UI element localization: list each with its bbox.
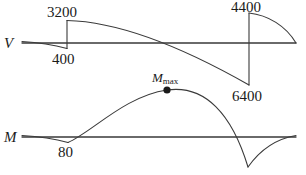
m-max-label: Mmax — [152, 71, 178, 84]
moment-axis-label: M — [4, 130, 17, 145]
moment-curve-hump — [68, 89, 248, 167]
moment-curve-segment-df — [248, 136, 296, 168]
beam-shear-moment-figure: V M 3200 400 4400 6400 80 Mmax — [0, 0, 306, 175]
shear-axis-label: V — [4, 36, 13, 51]
m-max-label-subscript: max — [163, 76, 179, 86]
shear-value-4400: 4400 — [231, 0, 261, 15]
m-max-label-base: M — [152, 70, 163, 85]
shear-value-400: 400 — [52, 52, 75, 67]
shear-value-3200: 3200 — [47, 5, 77, 20]
m-max-marker-dot — [163, 86, 170, 93]
moment-value-80: 80 — [58, 145, 73, 160]
shear-curve-segment-ef — [249, 13, 296, 43]
shear-value-6400: 6400 — [232, 89, 262, 104]
